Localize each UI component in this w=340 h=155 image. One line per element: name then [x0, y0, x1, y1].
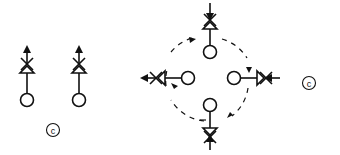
valve-symbol-top: [203, 3, 217, 59]
label-c-left-text: c: [51, 126, 56, 136]
node-circle: [228, 72, 241, 85]
node-circle: [21, 94, 34, 107]
right-group: [144, 3, 316, 150]
orbit-arrow-icon: [189, 37, 196, 43]
node-circle: [204, 99, 217, 112]
left-group: [20, 49, 86, 137]
diagram-canvas: c: [0, 0, 340, 155]
valve-symbol-left: [144, 71, 195, 85]
orbit-arrow-icon: [171, 83, 178, 89]
node-circle: [182, 72, 195, 85]
orbit-arrow-icon: [246, 67, 252, 73]
orbit-arrow-icon: [227, 112, 233, 118]
valve-symbol-bottom: [203, 99, 217, 151]
node-circle: [73, 94, 86, 107]
valve-symbol-left-1: [20, 49, 34, 107]
valve-symbol-right: [228, 71, 281, 85]
dashed-orbit: [166, 38, 248, 121]
valve-symbol-left-2: [72, 49, 86, 107]
node-circle: [204, 46, 217, 59]
label-c-right-text: c: [307, 79, 312, 89]
